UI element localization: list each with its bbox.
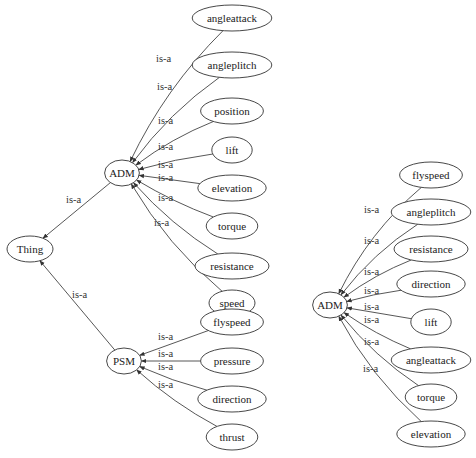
left-adm-node-angleattack: angleattack (192, 5, 272, 31)
edge-line (43, 183, 110, 239)
left-psm-node-flyspeed: flyspeed (201, 309, 264, 335)
nodes-layer: ThingADMangleattackangleplitchpositionli… (7, 5, 471, 450)
edge-label-is-a: is-a (364, 285, 380, 296)
node-label: angleplitch (208, 59, 257, 71)
right-adm-node-flyspeed: flyspeed (400, 162, 463, 188)
left-node-adm: ADM (105, 160, 140, 186)
edge-line (347, 308, 411, 319)
right-adm-node-lift: lift (411, 309, 451, 335)
edge-line (140, 331, 209, 356)
node-label: torque (417, 391, 445, 403)
left-adm-node-resistance: resistance (195, 253, 269, 279)
node-label: resistance (210, 260, 253, 272)
edge-label-is-a: is-a (364, 235, 380, 246)
edge-left-psm-direction: is-a (140, 361, 207, 390)
edge-left-psm-pressure: is-a (141, 348, 200, 361)
left-adm-node-position: position (201, 98, 264, 124)
edge-label-is-a: is-a (72, 289, 88, 300)
node-label: thrust (219, 431, 244, 443)
right-adm-node-angleplitch: angleplitch (391, 199, 471, 225)
left-adm-node-lift: lift (212, 137, 252, 163)
right-node-adm: ADM (313, 292, 348, 318)
edge-line (133, 77, 220, 162)
edge-line (139, 154, 213, 169)
right-adm-node-direction: direction (397, 271, 465, 297)
edge-label-is-a: is-a (364, 204, 380, 215)
node-label: ADM (109, 167, 135, 179)
node-label: flyspeed (213, 316, 251, 328)
node-label: resistance (409, 243, 452, 255)
right-adm-node-resistance: resistance (394, 236, 468, 262)
edge-label-is-a: is-a (158, 159, 174, 170)
edge-label-is-a: is-a (364, 336, 380, 347)
edge-label-is-a: is-a (158, 192, 174, 203)
edge-label-is-a: is-a (158, 172, 174, 183)
edge-line (40, 261, 115, 350)
edge-label-is-a: is-a (157, 81, 173, 92)
node-label: lift (226, 144, 239, 156)
node-label: Thing (17, 243, 44, 255)
edge-label-is-a: is-a (158, 361, 174, 372)
node-label: lift (425, 316, 438, 328)
node-label: angleattack (207, 12, 258, 24)
edge-label-is-a: is-a (154, 217, 170, 228)
edge-label-is-a: is-a (66, 194, 82, 205)
edge-label-is-a: is-a (158, 331, 174, 342)
node-label: flyspeed (412, 169, 450, 181)
left-node-thing: Thing (7, 236, 53, 262)
edge-label-is-a: is-a (364, 314, 380, 325)
edge-left-adm-position: is-a (136, 115, 214, 165)
edge-left-adm-angleattack: is-a (130, 31, 223, 162)
node-label: elevation (212, 182, 253, 194)
edge-left-adm-angleplitch: is-a (133, 77, 220, 162)
left-node-psm: PSM (107, 348, 142, 374)
node-label: speed (219, 297, 245, 309)
edge-label-is-a: is-a (364, 301, 380, 312)
edge-label-is-a: is-a (158, 141, 174, 152)
node-label: position (214, 105, 250, 117)
left-psm-node-thrust: thrust (206, 424, 258, 450)
edge-right-adm-lift: is-a (347, 301, 411, 319)
edge-line (130, 31, 223, 162)
node-label: ADM (317, 299, 343, 311)
node-label: angleplitch (407, 206, 456, 218)
edge-label-is-a: is-a (158, 115, 174, 126)
left-psm-node-pressure: pressure (201, 348, 264, 374)
ontology-diagram: is-ais-ais-ais-ais-ais-ais-ais-ais-ais-a… (0, 0, 476, 458)
right-adm-node-torque: torque (405, 384, 457, 410)
right-adm-node-elevation: elevation (397, 421, 465, 447)
node-label: pressure (214, 355, 251, 367)
edge-left-psm-flyspeed: is-a (140, 331, 209, 356)
edge-label-is-a: is-a (158, 379, 174, 390)
edge-label-is-a: is-a (158, 348, 174, 359)
right-adm-node-angleattack: angleattack (391, 347, 471, 373)
left-adm-node-angleplitch: angleplitch (192, 52, 272, 78)
left-adm-node-torque: torque (206, 213, 258, 239)
edge-adm-thing: is-a (43, 183, 110, 239)
left-adm-node-elevation: elevation (198, 175, 266, 201)
edge-label-is-a: is-a (363, 363, 379, 374)
node-label: PSM (113, 355, 135, 367)
node-label: direction (411, 278, 451, 290)
edge-line (140, 367, 207, 391)
node-label: angleattack (406, 354, 457, 366)
edge-label-is-a: is-a (156, 53, 172, 64)
edge-label-is-a: is-a (364, 266, 380, 277)
node-label: torque (218, 220, 246, 232)
node-label: elevation (411, 428, 452, 440)
node-label: direction (212, 393, 252, 405)
edge-psm-thing: is-a (40, 261, 115, 350)
edge-right-adm-direction: is-a (347, 285, 401, 302)
left-psm-node-direction: direction (198, 386, 266, 412)
